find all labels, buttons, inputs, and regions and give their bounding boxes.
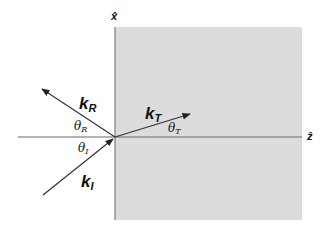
- incident-vector-label: kI: [81, 172, 94, 192]
- reflected-vector-label: kR: [79, 94, 96, 114]
- medium-region: [115, 27, 302, 220]
- z-axis-label: ẑ: [307, 130, 313, 142]
- diagram-canvas: [0, 0, 331, 233]
- reflected-angle-label: θR: [74, 119, 87, 134]
- incident-angle-label: θI: [78, 141, 88, 156]
- transmitted-vector-label: kT: [145, 104, 161, 124]
- transmitted-angle-label: θT: [168, 121, 181, 136]
- x-axis-label: x̂: [111, 10, 117, 22]
